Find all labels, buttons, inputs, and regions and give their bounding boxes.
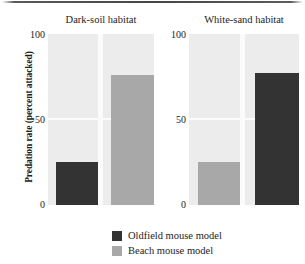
legend-item-oldfield-mouse-model: Oldfield mouse model: [112, 228, 222, 243]
y-tick-label-100-right: 100: [160, 29, 186, 40]
y-tick-label-0-right: 0: [160, 199, 186, 210]
legend-swatch-beach-icon: [112, 246, 122, 256]
bar-oldfield-mouse-model-white-sand: [255, 73, 299, 205]
legend-label-oldfield: Oldfield mouse model: [128, 230, 222, 241]
panel-title-dark-soil: Dark-soil habitat: [66, 14, 137, 25]
plot-area-white-sand: [189, 34, 299, 205]
y-tick-label-100-left: 100: [19, 29, 45, 40]
page-top-edge-artifact: [2, 1, 303, 3]
bar-beach-mouse-model-dark-soil: [111, 75, 154, 205]
legend-swatch-oldfield-icon: [112, 231, 122, 241]
chart-legend: Oldfield mouse model Beach mouse model: [112, 228, 222, 258]
panel-title-white-sand: White-sand habitat: [204, 14, 284, 25]
predation-rate-bar-chart-figure: Predation rate (percent attacked) 100 50…: [0, 0, 305, 264]
legend-item-beach-mouse-model: Beach mouse model: [112, 243, 222, 258]
legend-label-beach: Beach mouse model: [128, 245, 213, 256]
panel-dark-soil-habitat: Dark-soil habitat: [48, 34, 154, 205]
gridline-vertical-separator-dark-soil: [98, 34, 103, 205]
gridline-vertical-separator-white-sand: [240, 34, 245, 205]
y-tick-label-50-left: 50: [19, 114, 45, 125]
bar-oldfield-mouse-model-dark-soil: [56, 162, 98, 205]
panel-white-sand-habitat: White-sand habitat: [189, 34, 299, 205]
y-tick-label-50-right: 50: [160, 114, 186, 125]
y-tick-label-0-left: 0: [19, 199, 45, 210]
bar-beach-mouse-model-white-sand: [198, 162, 240, 205]
plot-area-dark-soil: [48, 34, 154, 205]
